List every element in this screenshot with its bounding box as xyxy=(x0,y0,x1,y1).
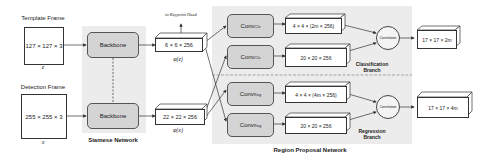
template-frame-size: 127 × 127 × 3 xyxy=(25,43,62,49)
classification-branch-label: Classification Branch xyxy=(356,61,389,73)
branch-label-line: Branch xyxy=(356,67,389,73)
template-frame: 127 × 127 × 3 xyxy=(24,27,64,65)
conv-subscript: Cls xyxy=(255,55,261,60)
conv-subscript: Cls xyxy=(255,24,261,29)
output-size: 17 × 17 × 4m xyxy=(428,105,457,111)
reg-output-tensor: 17 × 17 × 4m xyxy=(417,97,469,118)
correlation-label: Correlation xyxy=(379,105,396,109)
rpn-label: Region Proposal Network xyxy=(273,147,346,153)
correlation-cls: Correlation xyxy=(376,26,400,50)
conv-subscript: Reg xyxy=(254,92,261,97)
conv-label: Conv xyxy=(240,122,254,128)
template-frame-title: Template Frame xyxy=(21,15,64,21)
backbone-bottom-label: Backbone xyxy=(100,113,127,119)
detection-frame-size: 255 × 255 × 3 xyxy=(25,114,62,120)
reg-kernel-tensor: 4 × 4 × (4m × 256) xyxy=(285,86,347,103)
tensor-size: 4 × 4 × (2m × 256) xyxy=(293,23,334,29)
template-feature-size: 6 × 6 × 256 xyxy=(165,42,193,48)
detection-feature-symbol: φ(x) xyxy=(173,127,183,133)
tensor-size: 20 × 20 × 256 xyxy=(301,55,332,61)
backbone-top-label: Backbone xyxy=(100,42,127,48)
conv-label: Conv xyxy=(240,91,254,97)
branch-label-line: Branch xyxy=(358,134,385,140)
conv-cls-top: ConvCls xyxy=(227,14,274,38)
conv-reg-top: ConvReg xyxy=(227,82,274,106)
regression-branch-label: Regression Branch xyxy=(358,128,385,140)
cls-output-tensor: 17 × 17 × 2m xyxy=(417,30,457,49)
reg-search-tensor: 20 × 20 × 256 xyxy=(285,117,347,134)
template-feature-symbol: φ(z) xyxy=(173,56,183,62)
tensor-size: 20 × 20 × 256 xyxy=(301,123,332,129)
detection-frame-title: Detection Frame xyxy=(21,84,65,90)
correlation-reg: Correlation xyxy=(376,95,400,119)
backbone-bottom: Backbone xyxy=(87,103,139,129)
conv-label: Conv xyxy=(241,23,255,29)
detection-feature-size: 22 × 22 × 256 xyxy=(163,114,197,120)
cls-kernel-tensor: 4 × 4 × (2m × 256) xyxy=(285,18,342,34)
keypoint-head-note: to Keypoint Head xyxy=(165,12,197,17)
output-size: 17 × 17 × 2m xyxy=(422,37,451,43)
backbone-top: Backbone xyxy=(87,32,139,58)
template-symbol: z xyxy=(42,64,44,70)
cls-search-tensor: 20 × 20 × 256 xyxy=(285,48,347,67)
correlation-label: Correlation xyxy=(379,36,396,40)
detection-symbol: x xyxy=(42,139,45,145)
siamese-network-label: Siamese Network xyxy=(88,137,138,143)
conv-cls-bottom: ConvCls xyxy=(227,45,274,69)
conv-label: Conv xyxy=(241,54,255,60)
detection-frame: 255 × 255 × 3 xyxy=(21,94,67,139)
tensor-size: 4 × 4 × (4m × 256) xyxy=(295,92,336,98)
conv-subscript: Reg xyxy=(254,123,261,128)
conv-reg-bottom: ConvReg xyxy=(227,113,274,137)
